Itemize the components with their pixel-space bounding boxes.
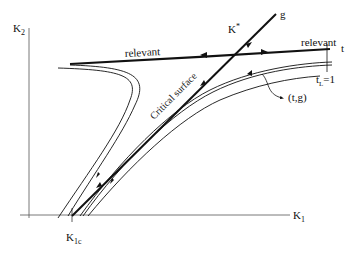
y-axis-label: K2 xyxy=(13,22,25,37)
flow-curve-right-inner-2 xyxy=(83,65,332,216)
relevant-arrow-right xyxy=(261,49,268,55)
relevant-right-label: relevant xyxy=(301,36,336,48)
flow-curve-right-inner xyxy=(80,62,332,216)
flow-trajectories xyxy=(58,62,332,218)
flow-pointer xyxy=(262,74,282,98)
critical-surface-line xyxy=(72,14,276,216)
t-label: t xyxy=(341,42,344,54)
relevant-line xyxy=(70,49,330,64)
rg-flow-diagram: K2 K1 K1c K* g t relevant relevant Criti… xyxy=(0,0,362,255)
k1c-label: K1c xyxy=(66,231,82,246)
g-label: g xyxy=(280,8,286,20)
tL-label: tL=1 xyxy=(316,73,335,88)
flow-curve-left-inner xyxy=(68,65,140,216)
flow-label: (t,g) xyxy=(288,91,307,104)
critical-point-label: K* xyxy=(228,22,240,35)
x-axis-label: K1 xyxy=(293,209,305,224)
flow-arrow-1 xyxy=(96,172,100,178)
relevant-left-label: relevant xyxy=(124,45,160,59)
